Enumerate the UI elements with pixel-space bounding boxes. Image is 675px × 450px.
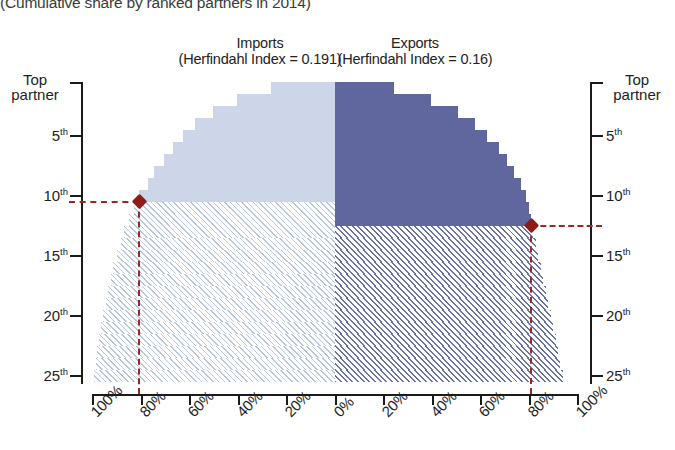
y-tick-right-25: [592, 375, 603, 377]
imports-bar-rank-6: [173, 142, 335, 154]
imports-bar-rank-8: [154, 166, 335, 178]
y-tick-right-10: [592, 195, 603, 197]
y-axis-label-left-15: 15th: [10, 246, 68, 264]
exports-bar-rank-24: [335, 358, 560, 370]
exports-bar-rank-6: [335, 142, 499, 154]
imports-bar-rank-24: [96, 358, 335, 370]
imports-bar-rank-25: [94, 370, 335, 382]
x-axis-label-3: 40%: [233, 387, 266, 420]
y-tick-right-15: [592, 255, 603, 257]
chart-subtitle: (Cumulative share by ranked partners in …: [0, 0, 420, 12]
exports-bar-rank-4: [335, 118, 475, 130]
imports-bar-rank-10: [139, 190, 335, 202]
y-axis-title-right: Toppartner: [604, 72, 670, 102]
exports-bar-rank-12: [335, 214, 531, 226]
exports-bar-rank-8: [335, 166, 514, 178]
y-axis-label-right-20: 20th: [606, 306, 631, 324]
chart-container: (Cumulative share by ranked partners in …: [0, 0, 675, 450]
y-axis-title-left: Toppartner: [2, 72, 68, 102]
y-axis-label-right-10: 10th: [606, 186, 631, 204]
imports-bar-rank-14: [121, 238, 335, 250]
exports-bar-rank-17: [335, 274, 543, 286]
y-axis-label-right-15: 15th: [606, 246, 631, 264]
exports-bar-rank-22: [335, 334, 556, 346]
imports-bar-rank-17: [111, 274, 335, 286]
x-axis-label-0: 100%: [87, 382, 125, 420]
exports-bar-rank-19: [335, 298, 548, 310]
exports-bar-rank-7: [335, 154, 507, 166]
x-axis-label-2: 60%: [184, 387, 217, 420]
imports-bar-rank-21: [101, 322, 335, 334]
exports-bar-rank-21: [335, 322, 553, 334]
imports-bar-rank-2: [237, 94, 335, 106]
exports-title: Exports: [285, 36, 545, 52]
exports-panel-header: Exports (Herfindahl Index = 0.16): [285, 36, 545, 67]
imports-bar-rank-12: [129, 214, 335, 226]
exports-threshold-guide-vertical: [530, 226, 532, 394]
y-tick-right-20: [592, 315, 603, 317]
y-axis-label-left-25: 25th: [10, 366, 68, 384]
exports-bar-rank-23: [335, 346, 558, 358]
y-tick-right-5: [592, 135, 603, 137]
y-tick-left-15: [70, 255, 81, 257]
y-tick-left-5: [70, 135, 81, 137]
exports-bar-rank-20: [335, 310, 551, 322]
x-axis-label-4: 20%: [281, 387, 314, 420]
y-tick-left-top: [70, 82, 81, 84]
y-axis-right-spine: [590, 82, 592, 384]
y-tick-right-top: [592, 82, 603, 84]
exports-bar-rank-5: [335, 130, 487, 142]
plot-area: [81, 82, 590, 382]
y-axis-label-left-5: 5th: [10, 126, 68, 144]
exports-bar-rank-10: [335, 190, 526, 202]
exports-herfindahl: (Herfindahl Index = 0.16): [285, 52, 545, 68]
imports-bar-rank-18: [108, 286, 335, 298]
exports-bar-rank-15: [335, 250, 538, 262]
exports-bar-rank-25: [335, 370, 563, 382]
imports-bar-rank-11: [134, 202, 335, 214]
imports-bar-rank-9: [148, 178, 335, 190]
imports-bar-rank-22: [99, 334, 335, 346]
imports-bar-rank-4: [195, 118, 335, 130]
exports-bar-rank-3: [335, 106, 458, 118]
y-tick-left-20: [70, 315, 81, 317]
imports-bar-rank-7: [164, 154, 336, 166]
x-axis-label-9: 80%: [524, 387, 557, 420]
x-axis-label-1: 80%: [136, 387, 169, 420]
exports-bar-rank-1: [335, 82, 394, 94]
imports-bar-rank-23: [97, 346, 335, 358]
imports-threshold-guide-horizontal: [69, 201, 139, 203]
imports-bar-rank-16: [113, 262, 335, 274]
y-axis-label-left-10: 10th: [10, 186, 68, 204]
x-axis-label-10: 100%: [572, 382, 610, 420]
exports-bar-rank-18: [335, 286, 546, 298]
imports-threshold-guide-vertical: [138, 202, 140, 394]
x-axis-label-7: 40%: [427, 387, 460, 420]
bars-layer: [81, 82, 590, 382]
y-axis-left-spine: [81, 82, 83, 384]
y-tick-left-25: [70, 375, 81, 377]
y-axis-label-right-25: 25th: [606, 366, 631, 384]
y-axis-label-left-20: 20th: [10, 306, 68, 324]
y-axis-label-right-5: 5th: [606, 126, 622, 144]
imports-bar-rank-1: [271, 82, 335, 94]
exports-bar-rank-11: [335, 202, 529, 214]
exports-bar-rank-16: [335, 262, 541, 274]
x-axis-label-6: 20%: [378, 387, 411, 420]
exports-threshold-guide-horizontal: [531, 225, 602, 227]
x-axis-label-8: 60%: [475, 387, 508, 420]
exports-bar-rank-14: [335, 238, 536, 250]
imports-bar-rank-3: [213, 106, 336, 118]
imports-bar-rank-19: [106, 298, 335, 310]
exports-bar-rank-2: [335, 94, 431, 106]
imports-bar-rank-13: [124, 226, 335, 238]
imports-bar-rank-5: [183, 130, 335, 142]
exports-bar-rank-9: [335, 178, 521, 190]
imports-bar-rank-15: [117, 250, 335, 262]
y-tick-left-10: [70, 195, 81, 197]
exports-bar-rank-13: [335, 226, 533, 238]
